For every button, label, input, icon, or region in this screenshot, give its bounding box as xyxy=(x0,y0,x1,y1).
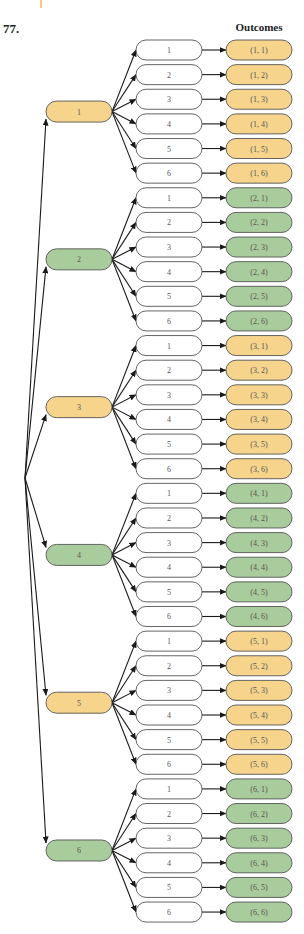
second-stage-node-1-1-label: 1 xyxy=(167,46,171,55)
second-stage-node-5-4-label: 4 xyxy=(167,711,171,720)
outcome-node-3-2: (3, 2) xyxy=(226,360,292,380)
outcome-node-4-4: (4, 4) xyxy=(226,557,292,577)
outcome-node-1-4-label: (1, 4) xyxy=(250,120,268,129)
outcome-node-4-3: (4, 3) xyxy=(226,533,292,553)
outcome-node-5-5: (5, 5) xyxy=(226,730,292,750)
outcome-node-3-5: (3, 5) xyxy=(226,434,292,454)
outcome-node-3-4-label: (3, 4) xyxy=(250,415,268,424)
second-stage-node-6-2: 2 xyxy=(136,804,202,824)
outcome-node-3-6-label: (3, 6) xyxy=(250,465,268,474)
second-stage-node-1-6: 6 xyxy=(136,163,202,183)
outcome-node-2-5: (2, 5) xyxy=(226,286,292,306)
second-stage-node-6-6: 6 xyxy=(136,902,202,922)
second-stage-node-4-3: 3 xyxy=(136,533,202,553)
first-stage-node-1: 1 xyxy=(46,101,112,122)
outcome-node-4-2: (4, 2) xyxy=(226,508,292,528)
second-stage-node-2-4-label: 4 xyxy=(167,268,171,277)
second-stage-node-3-1: 1 xyxy=(136,336,202,356)
outcome-node-5-1-label: (5, 1) xyxy=(250,637,268,646)
outcome-node-5-4-label: (5, 4) xyxy=(250,711,268,720)
tree-diagram: 11(1, 1)2(1, 2)3(1, 3)4(1, 4)5(1, 5)6(1,… xyxy=(0,0,304,934)
second-stage-node-2-5: 5 xyxy=(136,286,202,306)
outcome-node-2-1: (2, 1) xyxy=(226,188,292,208)
second-stage-node-6-4: 4 xyxy=(136,853,202,873)
outcome-node-1-6-label: (1, 6) xyxy=(250,169,268,178)
second-stage-node-5-3-label: 3 xyxy=(167,686,171,695)
outcome-node-1-5: (1, 5) xyxy=(226,139,292,159)
second-stage-node-6-5-label: 5 xyxy=(167,883,171,892)
outcome-node-2-3-label: (2, 3) xyxy=(250,243,268,252)
second-stage-node-1-4: 4 xyxy=(136,114,202,134)
second-stage-node-5-5-label: 5 xyxy=(167,736,171,745)
outcome-node-6-6-label: (6, 6) xyxy=(250,908,268,917)
second-stage-node-5-2-label: 2 xyxy=(167,662,171,671)
first-stage-node-1-label: 1 xyxy=(77,108,81,117)
second-stage-node-1-4-label: 4 xyxy=(167,120,171,129)
first-stage-node-2: 2 xyxy=(46,249,112,270)
first-stage-node-3: 3 xyxy=(46,397,112,418)
second-stage-node-5-4: 4 xyxy=(136,705,202,725)
outcome-node-6-5-label: (6, 5) xyxy=(250,883,268,892)
first-stage-node-6-label: 6 xyxy=(77,846,81,855)
outcome-node-4-5-label: (4, 5) xyxy=(250,588,268,597)
second-stage-node-5-3: 3 xyxy=(136,680,202,700)
second-stage-node-1-3-label: 3 xyxy=(167,95,171,104)
second-stage-node-1-6-label: 6 xyxy=(167,169,171,178)
second-stage-node-4-5-label: 5 xyxy=(167,588,171,597)
second-stage-node-4-3-label: 3 xyxy=(167,539,171,548)
outcome-node-2-6-label: (2, 6) xyxy=(250,317,268,326)
outcome-node-3-1-label: (3, 1) xyxy=(250,342,268,351)
outcome-node-5-2: (5, 2) xyxy=(226,656,292,676)
second-stage-node-5-5: 5 xyxy=(136,730,202,750)
outcome-node-5-3-label: (5, 3) xyxy=(250,686,268,695)
second-stage-node-2-1: 1 xyxy=(136,188,202,208)
outcome-node-1-1-label: (1, 1) xyxy=(250,46,268,55)
second-stage-node-6-3: 3 xyxy=(136,828,202,848)
outcome-node-2-1-label: (2, 1) xyxy=(250,194,268,203)
second-stage-node-5-6: 6 xyxy=(136,754,202,774)
second-stage-node-3-4: 4 xyxy=(136,409,202,429)
outcome-node-6-2-label: (6, 2) xyxy=(250,810,268,819)
second-stage-node-3-3-label: 3 xyxy=(167,391,171,400)
second-stage-node-6-5: 5 xyxy=(136,877,202,897)
outcome-node-2-4-label: (2, 4) xyxy=(250,268,268,277)
second-stage-node-5-1: 1 xyxy=(136,631,202,651)
outcome-node-2-5-label: (2, 5) xyxy=(250,292,268,301)
second-stage-node-2-6: 6 xyxy=(136,311,202,331)
outcome-node-5-6: (5, 6) xyxy=(226,754,292,774)
outcome-node-4-6-label: (4, 6) xyxy=(250,612,268,621)
second-stage-node-3-5: 5 xyxy=(136,434,202,454)
second-stage-node-3-1-label: 1 xyxy=(167,342,171,351)
outcome-node-1-3-label: (1, 3) xyxy=(250,95,268,104)
first-stage-node-3-label: 3 xyxy=(77,403,81,412)
second-stage-node-4-1: 1 xyxy=(136,483,202,503)
second-stage-node-4-2-label: 2 xyxy=(167,514,171,523)
outcome-node-5-2-label: (5, 2) xyxy=(250,662,268,671)
second-stage-node-3-4-label: 4 xyxy=(167,415,171,424)
second-stage-node-6-4-label: 4 xyxy=(167,859,171,868)
outcome-node-6-6: (6, 6) xyxy=(226,902,292,922)
second-stage-node-1-2-label: 2 xyxy=(167,71,171,80)
first-stage-node-5: 5 xyxy=(46,692,112,713)
second-stage-node-2-2-label: 2 xyxy=(167,218,171,227)
outcome-node-5-4: (5, 4) xyxy=(226,705,292,725)
outcome-node-4-2-label: (4, 2) xyxy=(250,514,268,523)
outcome-node-4-4-label: (4, 4) xyxy=(250,563,268,572)
second-stage-node-5-1-label: 1 xyxy=(167,637,171,646)
second-stage-node-4-1-label: 1 xyxy=(167,489,171,498)
second-stage-node-1-1: 1 xyxy=(136,40,202,60)
second-stage-node-2-6-label: 6 xyxy=(167,317,171,326)
second-stage-node-1-5-label: 5 xyxy=(167,145,171,154)
outcome-node-1-6: (1, 6) xyxy=(226,163,292,183)
first-stage-node-5-label: 5 xyxy=(77,699,81,708)
first-stage-node-6: 6 xyxy=(46,840,112,861)
second-stage-node-2-1-label: 1 xyxy=(167,194,171,203)
second-stage-node-6-2-label: 2 xyxy=(167,810,171,819)
outcome-node-6-3-label: (6, 3) xyxy=(250,834,268,843)
outcome-node-6-4: (6, 4) xyxy=(226,853,292,873)
second-stage-node-4-4: 4 xyxy=(136,557,202,577)
first-stage-node-4: 4 xyxy=(46,544,112,565)
outcome-node-3-1: (3, 1) xyxy=(226,336,292,356)
second-stage-node-3-2-label: 2 xyxy=(167,366,171,375)
outcome-node-3-6: (3, 6) xyxy=(226,459,292,479)
